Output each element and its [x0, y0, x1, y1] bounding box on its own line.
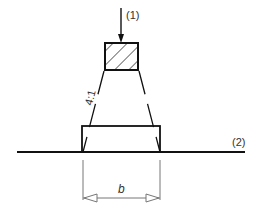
ground-label: (2)	[232, 136, 245, 148]
load-arrow	[118, 8, 124, 43]
base-block	[82, 126, 160, 152]
arrow-down-icon	[118, 34, 124, 43]
spread-lines	[83, 71, 160, 152]
ratio-label: 4:1	[82, 89, 97, 107]
arrow-right-icon	[146, 194, 159, 202]
load-label: (1)	[126, 9, 139, 21]
load-plate	[105, 43, 138, 70]
dimension-label: b	[118, 182, 125, 196]
load-distribution-diagram: (1) 4:1 (2) b	[0, 0, 256, 213]
arrow-left-icon	[84, 194, 97, 202]
